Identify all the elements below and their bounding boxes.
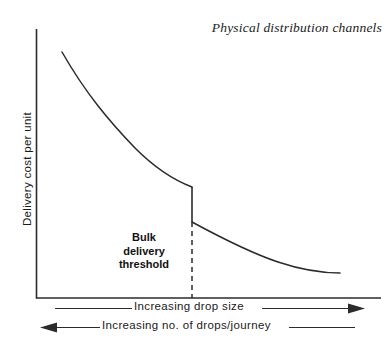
cost-curve-before-threshold <box>62 52 192 187</box>
cost-curve-after-threshold <box>192 222 340 273</box>
drop-size-arrow-right-icon <box>348 304 365 314</box>
drops-journey-arrow-left-icon <box>40 323 57 333</box>
chart-plot-area <box>0 0 392 347</box>
figure-container: Physical distribution channels Delivery … <box>0 0 392 347</box>
